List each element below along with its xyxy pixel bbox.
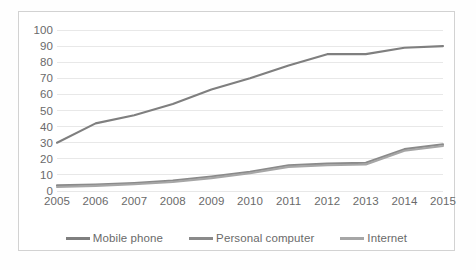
y-tick-label: 30 [40,137,53,149]
legend-entry[interactable]: Internet [340,232,407,244]
x-tick-label: 2015 [430,195,456,207]
chart-legend: Mobile phonePersonal computerInternet [18,228,455,248]
series-line [57,46,443,143]
x-tick-label: 2005 [44,195,70,207]
x-tick-label: 2014 [391,195,417,207]
y-axis: 0102030405060708090100 [18,30,53,191]
y-tick-label: 90 [40,40,53,52]
x-tick-label: 2013 [353,195,379,207]
x-tick-label: 2007 [121,195,147,207]
x-tick-label: 2010 [237,195,263,207]
plot-area [57,30,443,191]
chart-figure: 0102030405060708090100 20052006200720082… [0,0,476,270]
y-tick-label: 10 [40,169,53,181]
y-tick-label: 20 [40,153,53,165]
legend-entry[interactable]: Mobile phone [66,232,163,244]
legend-label: Internet [367,232,407,244]
legend-entry[interactable]: Personal computer [189,232,314,244]
x-tick-label: 2012 [314,195,340,207]
y-tick-label: 60 [40,88,53,100]
x-tick-label: 2006 [83,195,109,207]
legend-line-swatch [340,237,364,240]
legend-line-swatch [189,237,213,240]
y-tick-label: 80 [40,56,53,68]
series-lines [57,30,443,191]
y-tick-label: 100 [34,24,54,36]
x-tick-label: 2008 [160,195,186,207]
y-tick-label: 70 [40,72,53,84]
x-tick-label: 2011 [276,195,301,207]
x-axis: 2005200620072008200920102011201220132014… [57,195,443,211]
legend-label: Mobile phone [93,232,163,244]
series-line [57,144,443,185]
series-line [57,146,443,187]
y-tick-label: 50 [40,105,53,117]
legend-line-swatch [66,237,90,240]
x-tick-label: 2009 [198,195,224,207]
y-tick-label: 40 [40,121,53,133]
legend-label: Personal computer [216,232,314,244]
